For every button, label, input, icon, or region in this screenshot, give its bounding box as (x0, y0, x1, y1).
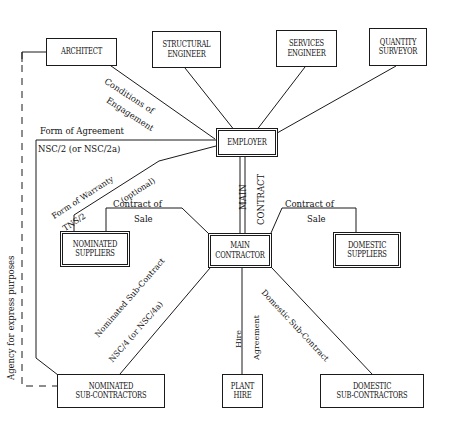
node-quantity-surveyor[interactable]: QUANTITY SURVEYOR (369, 28, 427, 66)
node-architect[interactable]: ARCHITECT (46, 38, 117, 66)
edge-cos-left-diag (182, 208, 208, 233)
node-services-engineer[interactable]: SERVICES ENGINEER (276, 30, 337, 67)
node-domestic-sub-contractors-label: DOMESTIC SUB-CONTRACTORS (327, 382, 417, 400)
label-contract-of-sale-left-line1: Contract of (113, 199, 162, 209)
node-plant-hire-label: PLANT HIRE (225, 382, 259, 400)
node-architect-label: ARCHITECT (51, 47, 112, 56)
node-main-contractor[interactable]: MAIN CONTRACTOR (208, 233, 272, 268)
node-nominated-sub-contractors-label: NOMINATED SUB-CONTRACTORS (64, 382, 157, 400)
node-structural-engineer-label: STRUCTURAL ENGINEER (157, 40, 216, 58)
edge-cos-right-diag (271, 208, 282, 233)
node-domestic-suppliers[interactable]: DOMESTIC SUPPLIERS (333, 232, 401, 268)
node-nominated-suppliers-label: NOMINATED SUPPLIERS (65, 240, 125, 258)
label-contract-of-sale-left-line2: Sale (134, 214, 153, 224)
label-contract: CONTRACT (256, 174, 266, 225)
node-structural-engineer[interactable]: STRUCTURAL ENGINEER (152, 31, 221, 68)
node-quantity-surveyor-label: QUANTITY SURVEYOR (373, 38, 422, 56)
node-nominated-sub-contractors[interactable]: NOMINATED SUB-CONTRACTORS (57, 374, 165, 408)
node-nominated-suppliers[interactable]: NOMINATED SUPPLIERS (60, 231, 130, 267)
label-agreement: Agreement (252, 315, 261, 360)
label-main: MAIN (238, 184, 248, 210)
label-hire: Hire (234, 330, 243, 348)
edge-warranty-to-employer (159, 146, 216, 161)
node-main-contractor-label: MAIN CONTRACTOR (213, 241, 268, 259)
edge-nsc2-elbow (36, 358, 58, 375)
edge-nominated-subcontract (120, 268, 210, 374)
edge-structural-employer (185, 68, 235, 131)
label-form-of-agreement: Form of Agreement (40, 126, 124, 136)
label-contract-of-sale-right-line2: Sale (307, 214, 326, 224)
node-services-engineer-label: SERVICES ENGINEER (281, 39, 333, 57)
label-contract-of-sale-right-line1: Contract of (285, 199, 334, 209)
label-agency-for-express-purposes: Agency for express purposes (6, 256, 16, 380)
node-employer-label: EMPLOYER (221, 138, 274, 147)
label-nsc2: NSC/2 (or NSC/2a) (38, 144, 120, 154)
diagram-canvas: ARCHITECT STRUCTURAL ENGINEER SERVICES E… (0, 0, 452, 438)
node-employer[interactable]: EMPLOYER (216, 128, 278, 157)
node-plant-hire[interactable]: PLANT HIRE (222, 374, 263, 408)
node-domestic-suppliers-label: DOMESTIC SUPPLIERS (338, 241, 396, 259)
edge-quantity-employer (270, 66, 396, 137)
node-domestic-sub-contractors[interactable]: DOMESTIC SUB-CONTRACTORS (320, 374, 424, 408)
